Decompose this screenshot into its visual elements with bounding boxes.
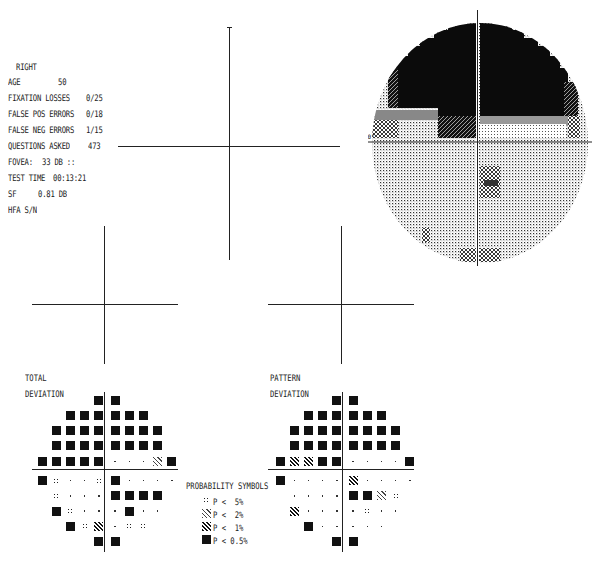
p-less-0.5-icon bbox=[349, 426, 358, 435]
p-less-5-icon bbox=[82, 523, 88, 529]
p-less-0.5-icon bbox=[80, 441, 89, 450]
p-less-0.5-icon bbox=[290, 441, 299, 450]
legend-item-text: P < 1% bbox=[213, 522, 243, 533]
p-less-5-icon bbox=[53, 493, 59, 499]
p-less-0.5-icon bbox=[125, 491, 134, 500]
normal-point-icon bbox=[322, 510, 323, 511]
p-less-0.5-icon bbox=[332, 396, 341, 405]
p-less-0.5-icon bbox=[167, 457, 176, 466]
normal-point-icon bbox=[395, 510, 396, 511]
p-less-0.5-icon bbox=[349, 491, 358, 500]
p-less-0.5-icon bbox=[139, 426, 148, 435]
normal-point-icon bbox=[352, 526, 353, 527]
normal-point-icon bbox=[308, 480, 309, 481]
normal-point-icon bbox=[294, 480, 295, 481]
p-less-0.5-icon bbox=[377, 441, 386, 450]
normal-point-icon bbox=[171, 480, 172, 481]
normal-point-icon bbox=[352, 461, 353, 462]
normal-point-icon bbox=[157, 510, 158, 511]
p-less-0.5-icon bbox=[349, 396, 358, 405]
td-label-2: DEVIATION bbox=[25, 388, 64, 399]
normal-point-icon bbox=[336, 510, 337, 511]
p-less-0.5-icon bbox=[139, 491, 148, 500]
p-less-0.5-icon bbox=[139, 411, 148, 420]
normal-point-icon bbox=[143, 480, 144, 481]
p-less-0.5-icon bbox=[363, 411, 372, 420]
p-less-2-icon bbox=[153, 457, 162, 466]
p-less-0.5-icon bbox=[125, 441, 134, 450]
normal-point-icon bbox=[381, 526, 382, 527]
normal-point-icon bbox=[322, 480, 323, 481]
p-less-0.5-icon bbox=[94, 457, 103, 466]
pd-vertical-axis bbox=[341, 226, 342, 364]
p-less-0.5-icon bbox=[304, 441, 313, 450]
p-less-0.5-icon bbox=[111, 441, 120, 450]
p-less-0.5-icon bbox=[391, 426, 400, 435]
normal-point-icon bbox=[294, 495, 295, 496]
p-less-5-icon bbox=[140, 523, 146, 529]
p-less-0.5-icon bbox=[290, 426, 299, 435]
p-less-0.5-icon bbox=[318, 411, 327, 420]
p-less-5-icon bbox=[393, 493, 399, 499]
p-less-0.5-icon bbox=[52, 441, 61, 450]
p-less-0.5-icon bbox=[139, 441, 148, 450]
normal-point-icon bbox=[381, 510, 382, 511]
p-less-5-icon bbox=[203, 497, 209, 503]
p-less-0.5-icon bbox=[66, 441, 75, 450]
p-less-0.5-icon bbox=[94, 441, 103, 450]
legend-title: PROBABILITY SYMBOLS bbox=[186, 480, 268, 491]
normal-point-icon bbox=[157, 480, 158, 481]
p-less-0.5-icon bbox=[111, 537, 120, 546]
p-less-0.5-icon bbox=[94, 396, 103, 405]
p-less-0.5-icon bbox=[318, 441, 327, 450]
normal-point-icon bbox=[98, 495, 99, 496]
p-less-2-icon bbox=[377, 491, 386, 500]
p-less-5-icon bbox=[96, 478, 102, 484]
p-less-0.5-icon bbox=[66, 426, 75, 435]
p-less-0.5-icon bbox=[332, 537, 341, 546]
p-less-0.5-icon bbox=[349, 441, 358, 450]
normal-point-icon bbox=[395, 461, 396, 462]
p-less-0.5-icon bbox=[153, 426, 162, 435]
p-less-1-icon bbox=[202, 522, 211, 531]
p-less-0.5-icon bbox=[80, 426, 89, 435]
grayscale-map: 10° bbox=[368, 8, 596, 266]
normal-point-icon bbox=[84, 480, 85, 481]
tdp-horizontal-axis bbox=[32, 469, 178, 470]
p-less-0.5-icon bbox=[363, 441, 372, 450]
p-less-0.5-icon bbox=[318, 426, 327, 435]
legend-item-text: P < 5% bbox=[213, 496, 243, 507]
p-less-0.5-icon bbox=[153, 491, 162, 500]
p-less-0.5-icon bbox=[377, 411, 386, 420]
p-less-1-icon bbox=[290, 457, 299, 466]
p-less-0.5-icon bbox=[52, 426, 61, 435]
p-less-0.5-icon bbox=[125, 411, 134, 420]
td-vertical-axis bbox=[104, 226, 105, 364]
p-less-0.5-icon bbox=[80, 457, 89, 466]
p-less-0.5-icon bbox=[304, 411, 313, 420]
p-less-0.5-icon bbox=[276, 476, 285, 485]
normal-point-icon bbox=[308, 510, 309, 511]
normal-point-icon bbox=[84, 510, 85, 511]
td-label-1: TOTAL bbox=[25, 372, 47, 383]
pd-label-1: PATTERN bbox=[270, 372, 300, 383]
normal-point-icon bbox=[143, 510, 144, 511]
p-less-0.5-icon bbox=[125, 507, 134, 516]
p-less-0.5-icon bbox=[111, 476, 120, 485]
normal-point-icon bbox=[381, 480, 382, 481]
legend-item-text: P < 0.5% bbox=[213, 535, 248, 546]
p-less-0.5-icon bbox=[349, 411, 358, 420]
p-less-0.5-icon bbox=[38, 476, 47, 485]
p-less-0.5-icon bbox=[202, 535, 211, 544]
p-less-0.5-icon bbox=[94, 411, 103, 420]
p-less-0.5-icon bbox=[111, 411, 120, 420]
grayscale-plot: 10° bbox=[368, 8, 596, 266]
p-less-0.5-icon bbox=[363, 426, 372, 435]
p-less-5-icon bbox=[53, 478, 59, 484]
pd-label-2: DEVIATION bbox=[270, 388, 309, 399]
normal-point-icon bbox=[322, 526, 323, 527]
p-less-0.5-icon bbox=[276, 457, 285, 466]
p-less-0.5-icon bbox=[332, 411, 341, 420]
normal-point-icon bbox=[70, 480, 71, 481]
normal-point-icon bbox=[84, 495, 85, 496]
